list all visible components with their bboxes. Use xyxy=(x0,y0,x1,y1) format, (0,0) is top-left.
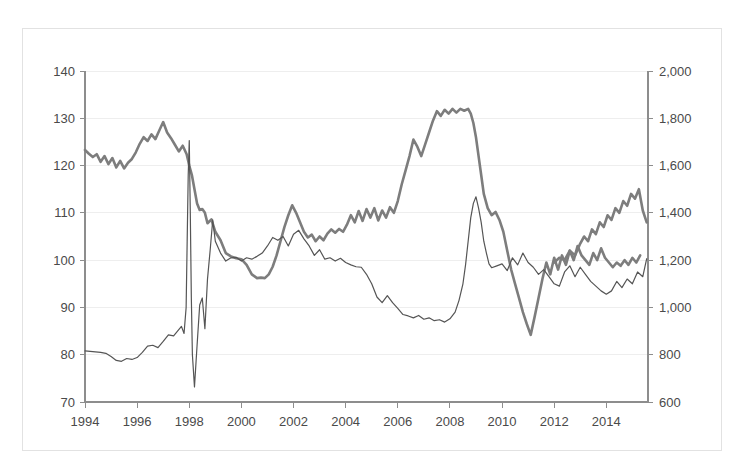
x-tick-label: 2012 xyxy=(540,414,569,429)
x-tick-label: 2000 xyxy=(227,414,256,429)
x-tick-label: 1998 xyxy=(175,414,204,429)
x-tick-label: 1994 xyxy=(71,414,100,429)
y-tick-label: 130 xyxy=(53,111,75,126)
x-tick-label: 2014 xyxy=(592,414,621,429)
x-tick-label: 1996 xyxy=(123,414,152,429)
y-tick-label: 100 xyxy=(53,253,75,268)
y2-tick-label: 1,200 xyxy=(659,253,692,268)
y-tick-label: 110 xyxy=(54,205,75,220)
x-tick-label: 2010 xyxy=(488,414,517,429)
x-tick-label: 2006 xyxy=(383,414,412,429)
x-axis-labels: 1994199619982000200220042006200820102012… xyxy=(71,414,621,429)
y-tick-label: 70 xyxy=(61,395,75,410)
y2-tick-label: 1,800 xyxy=(659,111,692,126)
axes xyxy=(85,71,648,402)
y2-tick-label: 2,000 xyxy=(659,64,692,79)
series-line-thick-gray-series xyxy=(85,109,640,335)
line-chart: 708090100110120130140 6008001,0001,2001,… xyxy=(0,0,747,476)
y-axis-labels: 708090100110120130140 xyxy=(53,64,75,410)
series-line-thin-dark-series xyxy=(85,141,647,387)
y2-tick-label: 600 xyxy=(659,395,681,410)
y2-tick-label: 1,400 xyxy=(659,205,692,220)
y-tick-label: 140 xyxy=(53,64,75,79)
series-layer xyxy=(85,109,647,387)
y-tick-label: 120 xyxy=(53,158,75,173)
y2-axis-labels: 6008001,0001,2001,4001,6001,8002,000 xyxy=(659,64,692,410)
y2-tick-label: 800 xyxy=(659,347,681,362)
x-tick-label: 2002 xyxy=(279,414,308,429)
y-tick-label: 80 xyxy=(61,347,75,362)
x-tick-label: 2008 xyxy=(435,414,464,429)
y-tick-label: 90 xyxy=(61,300,75,315)
y2-tick-label: 1,600 xyxy=(659,158,692,173)
y2-tick-label: 1,000 xyxy=(659,300,692,315)
chart-figure: 708090100110120130140 6008001,0001,2001,… xyxy=(0,0,747,476)
tick-marks xyxy=(80,71,653,408)
x-tick-label: 2004 xyxy=(331,414,360,429)
